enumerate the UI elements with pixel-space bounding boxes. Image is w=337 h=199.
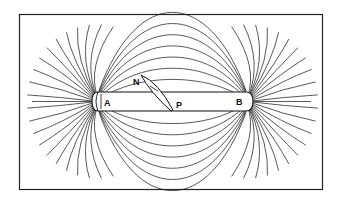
label-pole-a: A: [104, 98, 111, 108]
label-needle-p: P: [176, 100, 182, 110]
label-needle-n: N: [133, 77, 140, 87]
magnet-field-diagram: A B N P: [0, 0, 337, 199]
label-pole-b: B: [236, 97, 243, 107]
